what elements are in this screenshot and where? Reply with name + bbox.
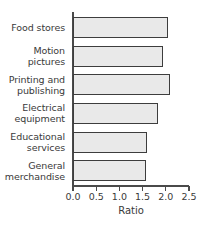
x-axis-title: Ratio [73, 205, 189, 216]
x-axis-tick-label: 2.0 [158, 191, 173, 203]
bar-slot [73, 13, 189, 42]
bar-series [73, 13, 189, 185]
x-axis-tick-label: 0.5 [89, 191, 104, 203]
bar-motion-pictures [73, 46, 163, 67]
bar-electrical-equipment [73, 103, 158, 124]
x-axis-tick-label: 2.5 [181, 191, 196, 203]
bar-slot [73, 42, 189, 71]
y-axis-label-general-merchandise: General merchandise [0, 156, 69, 185]
x-axis-tick-labels: 0.00.51.01.52.02.5 [73, 191, 189, 205]
bar-chart: Food stores Motion pictures Printing and… [0, 0, 206, 226]
y-axis-label-printing-and-publishing: Printing and publishing [0, 70, 69, 99]
plot-area [73, 13, 189, 185]
x-axis-tick-label: 1.0 [112, 191, 127, 203]
y-axis-label-food-stores: Food stores [0, 13, 69, 42]
bar-printing-and-publishing [73, 74, 170, 95]
bar-slot [73, 156, 189, 185]
y-axis-label-educational-services: Educational services [0, 128, 69, 157]
bar-slot [73, 70, 189, 99]
bar-food-stores [73, 17, 168, 38]
y-axis-label-motion-pictures: Motion pictures [0, 42, 69, 71]
bar-slot [73, 99, 189, 128]
x-axis-tick-label: 1.5 [135, 191, 150, 203]
y-axis-category-labels: Food stores Motion pictures Printing and… [0, 13, 69, 185]
y-axis-label-electrical-equipment: Electrical equipment [0, 99, 69, 128]
bar-slot [73, 128, 189, 157]
x-axis-tick-label: 0.0 [65, 191, 80, 203]
bar-general-merchandise [73, 160, 146, 181]
bar-educational-services [73, 132, 147, 153]
